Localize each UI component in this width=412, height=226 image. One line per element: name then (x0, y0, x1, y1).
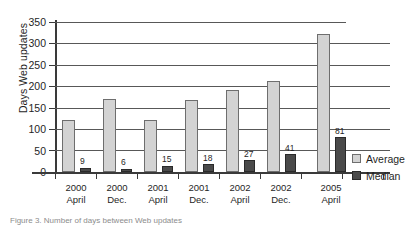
x-tick-mark-3 (178, 172, 179, 179)
bar-value-median-2002-dec: 41 (285, 143, 294, 153)
x-category-month: Dec. (176, 194, 222, 206)
bar-median-2001-april[interactable] (162, 166, 173, 172)
gridline-350 (55, 22, 346, 23)
y-tick-label-50: 50 (0, 145, 46, 157)
bar-value-median-2000-april: 9 (80, 156, 85, 166)
legend-label-average: Average (366, 153, 405, 165)
x-category-2002-april: 2002 April (217, 182, 263, 205)
x-category-month: Dec. (258, 194, 304, 206)
x-category-year: 2002 (217, 182, 263, 194)
chart-figure: Days Web updates 350 300 250 200 150 100… (0, 0, 412, 226)
x-axis-line (32, 172, 390, 174)
bar-value-median-2000-dec: 6 (121, 157, 126, 167)
bar-median-2001-dec[interactable] (203, 164, 214, 172)
y-tick-label-250: 250 (0, 59, 46, 71)
x-tick-mark-7 (342, 172, 343, 179)
x-category-2000-april: 2000 April (53, 182, 99, 205)
bar-average-2001-april[interactable] (144, 120, 157, 172)
bar-value-median-2005-april: 81 (335, 126, 344, 136)
bar-median-2000-dec[interactable] (121, 169, 132, 172)
x-category-2001-dec: 2001 Dec. (176, 182, 222, 205)
y-tick-label-300: 300 (0, 37, 46, 49)
chart-legend: Average Median (352, 150, 405, 184)
x-category-year: 2002 (258, 182, 304, 194)
figure-caption: Figure 3. Number of days between Web upd… (10, 216, 310, 226)
legend-label-median: Median (366, 170, 400, 182)
x-category-year: 2001 (176, 182, 222, 194)
y-tick-label-350: 350 (0, 16, 46, 28)
x-tick-mark-6 (301, 172, 302, 179)
x-tick-mark-0 (55, 172, 56, 179)
x-tick-mark-5 (260, 172, 261, 179)
legend-item-median[interactable]: Median (352, 167, 405, 184)
legend-item-average[interactable]: Average (352, 150, 405, 167)
x-category-2005-april: 2005 April (308, 182, 354, 205)
gridline-200 (55, 86, 390, 87)
bar-median-2002-dec[interactable] (285, 154, 296, 172)
x-tick-mark-1 (96, 172, 97, 179)
x-category-year: 2001 (135, 182, 181, 194)
x-category-month: April (53, 194, 99, 206)
y-tick-label-100: 100 (0, 123, 46, 135)
x-tick-mark-4 (219, 172, 220, 179)
x-category-2000-dec: 2000 Dec. (94, 182, 140, 205)
gridline-300 (55, 43, 390, 44)
x-category-year: 2000 (94, 182, 140, 194)
x-category-year: 2005 (308, 182, 354, 194)
bar-median-2002-april[interactable] (244, 160, 255, 172)
bar-average-2002-april[interactable] (226, 90, 239, 172)
bar-value-median-2001-april: 15 (162, 154, 171, 164)
x-category-month: April (217, 194, 263, 206)
plot-area: 9 6 15 18 27 41 81 (55, 22, 346, 172)
bar-value-median-2002-april: 27 (244, 149, 253, 159)
x-category-year: 2000 (53, 182, 99, 194)
x-category-2002-dec: 2002 Dec. (258, 182, 304, 205)
bar-median-2000-april[interactable] (80, 168, 91, 172)
y-tick-label-200: 200 (0, 80, 46, 92)
bar-average-2000-dec[interactable] (103, 99, 116, 172)
legend-swatch-median-icon (352, 171, 361, 180)
bar-average-2001-dec[interactable] (185, 100, 198, 172)
bar-average-2000-april[interactable] (62, 120, 75, 172)
bar-median-2005-april[interactable] (335, 137, 346, 172)
x-category-2001-april: 2001 April (135, 182, 181, 205)
bar-average-2005-april[interactable] (317, 34, 330, 172)
bar-average-2002-dec[interactable] (267, 81, 280, 172)
gridline-250 (55, 65, 390, 66)
bar-value-median-2001-dec: 18 (203, 153, 212, 163)
x-category-month: April (135, 194, 181, 206)
x-category-month: Dec. (94, 194, 140, 206)
y-tick-label-150: 150 (0, 102, 46, 114)
x-tick-mark-2 (137, 172, 138, 179)
x-category-month: April (308, 194, 354, 206)
legend-swatch-average-icon (352, 154, 361, 163)
